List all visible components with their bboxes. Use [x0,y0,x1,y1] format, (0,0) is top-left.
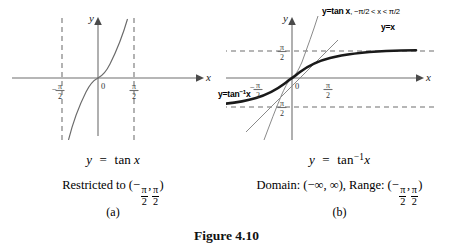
figure-label: Figure 4.10 [0,228,453,244]
eq-exponent: −1 [354,152,364,162]
callout-arctan: y=tan−1x [218,88,251,99]
x-tick-pos-pi-over-2: π 2 [324,81,333,100]
panel-a-subtitle: Restricted to (−π2,π2) [0,178,226,207]
plot-tangent: − π 2 π 2 0 x y [0,0,226,140]
frac-pi-2-right: π2 [152,185,159,207]
origin-label: 0 [295,81,299,91]
svg-text:π: π [256,81,260,90]
callout-arctan-pre: y=tan [218,89,239,99]
frac-pi-2-right: π2 [411,185,418,207]
origin-label: 0 [101,81,105,91]
x-axis-label: x [205,71,211,83]
callout-tan-condition: , −π/2 < x < π/2 [350,7,400,16]
svg-text:2: 2 [326,91,330,100]
svg-text:2: 2 [58,92,62,101]
eq-sign: = [322,152,330,167]
svg-text:2: 2 [132,92,136,101]
svg-text:π: π [326,81,330,90]
x-axis-label: x [425,71,431,83]
panel-b-subtitle: Domain: (−∞, ∞), Range: (−π2,π2) [226,178,453,207]
x-tick-pos-pi-over-2: π 2 [130,82,139,101]
panel-b-tag: (b) [226,205,453,220]
panel-a-tag: (a) [0,205,226,220]
svg-text:2: 2 [256,91,260,100]
x-tick-neg-pi-over-2: − π 2 [52,82,65,101]
callout-tan: y=tan x, −π/2 < x < π/2 [322,6,400,16]
x-axis [12,74,204,82]
domain-range-text: Domain: (−∞, ∞), Range: (− [257,178,399,192]
callout-tan-label: y=tan x [322,6,350,16]
svg-text:π: π [132,82,136,91]
y-axis-label: y [282,12,288,24]
eq-rhs: tan [337,152,353,167]
panel-a: − π 2 π 2 0 x y y = tan x Restricted to … [0,0,226,251]
svg-text:π: π [280,99,284,108]
eq-y: y [86,152,92,167]
svg-text:−: − [52,84,57,94]
svg-text:π: π [58,82,62,91]
y-tick-pos-pi-over-2: π 2 [278,43,287,62]
svg-text:2: 2 [280,53,284,62]
eq-rhs: tan x [115,152,140,167]
figure-4-10: − π 2 π 2 0 x y y = tan x Restricted to … [0,0,453,251]
svg-text:2: 2 [280,109,284,118]
panel-b-equation: y = tan−1x [226,152,453,168]
panel-b: π 2 π 2 − π 2 π 2 0 x y [226,0,453,251]
eq-sign: = [100,152,108,167]
restricted-text: Restricted to (− [62,178,140,192]
frac-pi-2-left: π2 [399,185,406,207]
eq-y: y [309,152,315,167]
arctan-curve [226,50,416,104]
callout-arctan-var: x [246,89,251,99]
eq-var: x [364,152,370,167]
panel-a-equation: y = tan x [0,152,226,168]
svg-text:π: π [280,43,284,52]
frac-pi-2-left: π2 [141,185,148,207]
plot-arctangent: π 2 π 2 − π 2 π 2 0 x y [226,0,453,140]
callout-identity: y=x [381,22,395,32]
y-axis-label: y [88,12,94,24]
